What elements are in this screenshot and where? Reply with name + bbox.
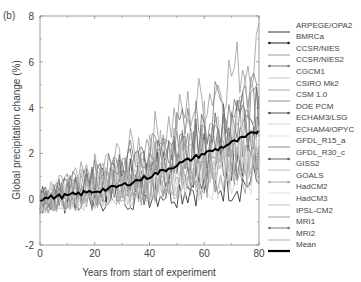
legend-item: HadCM3 [268,193,361,205]
x-tick-label: 60 [199,248,211,259]
legend-item: CSIRO Mk2 [268,78,361,90]
x-tick-label: 80 [253,248,265,259]
legend-label: HadCM2 [296,183,328,191]
legend-line-swatch-icon [268,91,290,99]
y-tick-label: 2 [28,148,34,159]
legend-item: Mean [268,239,361,251]
legend-label: CSM 1.0 [296,91,327,99]
legend-line-swatch-icon [268,183,290,191]
y-tick-label: -2 [25,240,34,251]
legend-label: ECHAM4/OPYC [296,126,354,134]
legend-line-swatch-icon [268,160,290,168]
legend-label: GOALS [296,172,324,180]
legend-label: ARPEGE/OPA2 [296,22,352,30]
legend-item: GISS2 [268,159,361,171]
legend-label: MRI2 [296,230,315,238]
legend-line-swatch-icon [268,22,290,30]
legend-item: GOALS [268,170,361,182]
chart-legend: ARPEGE/OPA2BMRCaCCSR/NIESCCSR/NIES2CGCM1… [268,20,361,251]
legend-line-swatch-icon [268,172,290,180]
panel-label: (b) [3,10,15,21]
legend-item: ECHAM3/LSG [268,112,361,124]
legend-line-swatch-icon [268,114,290,122]
legend-line-swatch-icon [268,80,290,88]
legend-label: GFDL_R30_c [296,149,345,157]
legend-line-swatch-icon [268,207,290,215]
legend-line-swatch-icon [268,103,290,111]
legend-label: CSIRO Mk2 [296,80,339,88]
y-tick-label: 4 [28,103,34,114]
legend-label: CGCM1 [296,68,325,76]
legend-label: GFDL_R15_a [296,137,345,145]
legend-line-swatch-icon [268,195,290,203]
legend-item: CSM 1.0 [268,89,361,101]
legend-item: ECHAM4/OPYC [268,124,361,136]
legend-item: DOE PCM [268,101,361,113]
y-axis-label: Global precipitation change (%) [11,60,22,200]
legend-item: CCSR/NIES [268,43,361,55]
model-series-lines [40,23,259,214]
legend-label: Mean [296,241,316,249]
legend-item: HadCM2 [268,182,361,194]
y-tick-label: 8 [28,11,34,22]
legend-label: MRI1 [296,218,315,226]
x-tick-label: 20 [89,248,101,259]
legend-item: IPSL-CM2 [268,205,361,217]
legend-item: GFDL_R15_a [268,135,361,147]
legend-label: IPSL-CM2 [296,207,333,215]
y-tick-label: 6 [28,57,34,68]
legend-label: ECHAM3/LSG [296,114,348,122]
legend-item: CGCM1 [268,66,361,78]
x-tick-label: 40 [144,248,156,259]
legend-label: CCSR/NIES2 [296,56,344,64]
legend-label: BMRCa [296,33,324,41]
legend-item: ARPEGE/OPA2 [268,20,361,32]
legend-label: DOE PCM [296,103,333,111]
legend-line-swatch-icon [268,230,290,238]
legend-label: HadCM3 [296,195,328,203]
x-tick-label: 0 [37,248,43,259]
legend-label: GISS2 [296,160,320,168]
y-tick-label: 0 [28,194,34,205]
legend-line-swatch-icon [268,33,290,41]
legend-line-swatch-icon [268,126,290,134]
legend-line-swatch-icon [268,241,290,249]
legend-line-swatch-icon [268,218,290,226]
legend-item: BMRCa [268,32,361,44]
legend-item: GFDL_R30_c [268,147,361,159]
legend-item: MRI2 [268,228,361,240]
legend-line-swatch-icon [268,68,290,76]
legend-label: CCSR/NIES [296,45,340,53]
legend-line-swatch-icon [268,137,290,145]
legend-line-swatch-icon [268,56,290,64]
legend-line-swatch-icon [268,149,290,157]
legend-line-swatch-icon [268,45,290,53]
legend-item: MRI1 [268,216,361,228]
x-axis-label: Years from start of experiment [82,267,216,278]
legend-item: CCSR/NIES2 [268,55,361,67]
